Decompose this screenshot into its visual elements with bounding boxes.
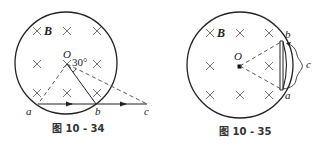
angle-label: 30° — [72, 56, 87, 68]
cross-icon — [93, 27, 101, 35]
cross-icon — [265, 91, 273, 99]
center-label-O: O — [234, 50, 242, 62]
diagram-canvas: B O 30° a b c 图 10 - 34 — [0, 0, 326, 148]
field-label-B: B — [216, 26, 225, 40]
cross-icon — [265, 29, 273, 37]
cross-icon — [206, 62, 214, 70]
figure-caption: 图 10 - 34 — [52, 123, 104, 134]
field-label-B: B — [43, 24, 52, 38]
cross-icon — [93, 60, 101, 68]
cross-icon — [33, 27, 41, 35]
line-Ob — [67, 64, 96, 104]
point-label-b: b — [95, 105, 101, 117]
cross-icon — [206, 29, 214, 37]
angle-arc-30 — [73, 69, 76, 72]
cross-icon — [206, 91, 214, 99]
wire-arrow-icon — [286, 42, 291, 46]
cross-icon — [33, 89, 41, 97]
arc-ab — [283, 42, 287, 89]
point-label-c: c — [144, 105, 149, 117]
figure-10-35: B O b a c 图 10 - 35 — [187, 12, 311, 137]
center-label-O: O — [63, 48, 71, 60]
cross-icon — [93, 89, 101, 97]
point-label-b: b — [285, 28, 291, 40]
dashed-radius-Oa — [38, 64, 67, 104]
point-label-c: c — [306, 58, 311, 70]
dashed-line-Ob — [240, 42, 281, 66]
cross-icon — [265, 62, 273, 70]
cross-icon — [33, 60, 41, 68]
cross-icon — [63, 89, 71, 97]
dashed-line-Oc — [67, 64, 147, 104]
point-label-a: a — [26, 105, 32, 117]
point-label-a: a — [285, 89, 291, 101]
figure-10-34: B O 30° a b c 图 10 - 34 — [15, 12, 149, 134]
cross-icon — [236, 91, 244, 99]
figure-caption: 图 10 - 35 — [219, 126, 271, 137]
dashed-line-Oa — [240, 66, 281, 89]
cross-icon — [236, 29, 244, 37]
cross-icon — [63, 27, 71, 35]
